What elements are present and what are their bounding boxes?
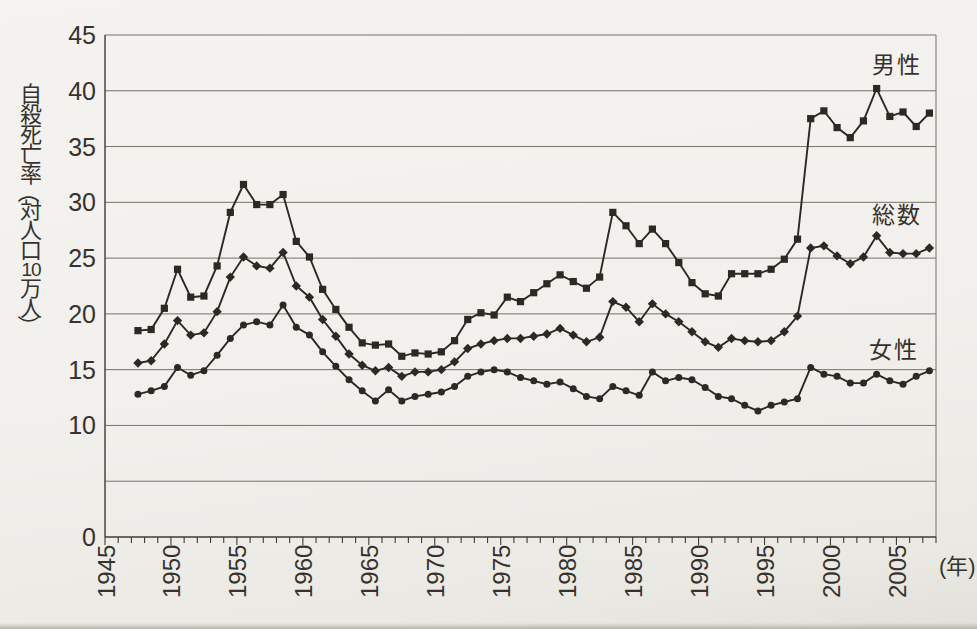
y-tick-label: 45 [68,21,96,49]
circle-marker [346,376,353,383]
circle-marker [807,364,814,371]
circle-marker [451,383,458,390]
x-tick-label: 1975 [488,545,515,598]
square-marker [688,279,695,286]
square-marker [491,311,498,318]
y-axis-title-char: （ [23,181,39,203]
square-marker [200,292,207,299]
diamond-marker [582,337,591,346]
circle-marker [504,368,511,375]
square-marker [279,191,286,198]
x-tick-label: 1970 [422,545,449,598]
circle-marker [820,371,827,378]
square-marker [886,113,893,120]
diamond-marker [437,365,446,374]
male-series-line [138,89,929,357]
y-axis-title-char: 万 [20,278,42,298]
circle-marker [794,395,801,402]
x-axis-unit-label: (年) [939,554,976,579]
legend-total-label: 総数 [872,202,922,228]
square-marker [675,259,682,266]
y-axis-title-char: 口 [20,240,42,260]
diamond-marker [608,297,617,306]
circle-marker [688,376,695,383]
square-marker [266,201,273,208]
square-marker [332,306,339,313]
diamond-marker [503,334,512,343]
square-marker [293,238,300,245]
y-axis-title-char: ） [23,315,39,337]
square-marker [794,236,801,243]
square-marker [926,109,933,116]
y-tick-labels: 01015202530354045 [68,21,96,551]
square-marker [438,348,445,355]
total-series [133,231,934,381]
square-marker [319,286,326,293]
circle-marker [847,380,854,387]
square-marker [913,123,920,130]
circle-marker [596,395,603,402]
circle-marker [161,383,168,390]
y-tick-label: 25 [68,244,96,272]
circle-marker [464,373,471,380]
circle-marker [372,397,379,404]
diamond-marker [529,332,538,341]
y-axis-title-char: 対 [20,200,42,220]
circle-marker [359,387,366,394]
x-tick-marks [105,537,936,545]
y-tick-label: 15 [68,356,96,384]
diamond-marker [410,367,419,376]
diamond-marker [569,330,578,339]
circle-marker [662,377,669,384]
x-tick-label: 1990 [686,545,713,598]
circle-marker [926,367,933,374]
female-series [134,301,932,414]
diamond-marker [555,324,564,333]
square-marker [583,285,590,292]
circle-marker [543,381,550,388]
diamond-marker [516,334,525,343]
circle-marker [623,387,630,394]
diamond-marker [542,329,551,338]
circle-marker [530,377,537,384]
y-axis-title: 自殺死亡率（対人口10万人） [14,84,48,334]
x-tick-label: 1950 [158,545,185,598]
square-marker [860,117,867,124]
circle-marker [886,377,893,384]
diamond-marker [133,358,142,367]
square-marker [398,353,405,360]
square-marker [372,342,379,349]
square-marker [622,222,629,229]
square-marker [715,292,722,299]
diamond-marker [595,333,604,342]
x-tick-label: 2000 [818,545,845,598]
circle-marker [266,322,273,329]
circle-marker [609,383,616,390]
x-tick-label: 1955 [224,545,251,598]
y-axis-title-char: 殺 [20,104,42,124]
circle-marker [715,393,722,400]
square-marker [161,305,168,312]
y-tick-label: 35 [68,133,96,161]
diamond-marker [912,249,921,258]
circle-marker [768,402,775,409]
x-tick-label: 1965 [356,545,383,598]
circle-marker [293,324,300,331]
circle-marker [728,395,735,402]
square-marker [649,226,656,233]
square-marker [873,85,880,92]
x-tick-label: 1960 [290,545,317,598]
square-marker [451,337,458,344]
circle-marker [557,378,564,385]
circle-marker [148,387,155,394]
diamond-marker [476,339,485,348]
square-marker [570,278,577,285]
diamond-marker [846,259,855,268]
circle-marker [636,392,643,399]
square-marker [425,350,432,357]
square-marker [609,209,616,216]
diamond-marker [423,367,432,376]
circle-marker [253,318,260,325]
square-marker [556,271,563,278]
diamond-marker [806,243,815,252]
